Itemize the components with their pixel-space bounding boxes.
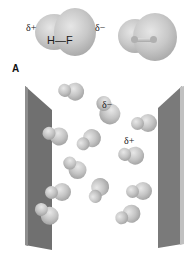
hydrogen-atom [45,186,58,199]
right-plate [158,86,182,248]
hf-molecule [56,80,85,104]
hf-molecule [131,114,157,134]
delta-minus-label: δ− [102,100,112,110]
atom-core-h [131,36,138,43]
hydrogen-atom [131,117,144,130]
panel-label: A [12,64,19,74]
delta-minus-label: δ− [95,23,105,33]
atom-core-f [150,36,157,43]
hf-bond-label: H—F [47,35,73,46]
delta-plus-label: δ+ [124,136,134,146]
hydrogen-atom [126,185,139,198]
hf-molecule [45,183,71,203]
hf-molecule [126,182,152,202]
delta-plus-label: δ+ [26,23,36,33]
fluorine-atom [54,8,96,56]
hf-molecule [116,144,145,168]
